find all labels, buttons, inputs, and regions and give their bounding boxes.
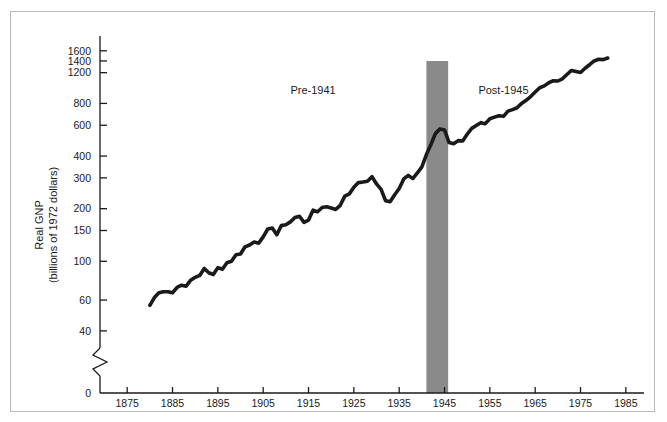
axes-layer bbox=[93, 36, 644, 393]
real-gnp-line bbox=[150, 58, 608, 305]
y-tick-label: 100 bbox=[73, 255, 91, 267]
data-series-layer bbox=[150, 58, 608, 305]
x-tick-label: 1935 bbox=[388, 397, 412, 409]
figure-container: 4060100150200300400600800120014001600018… bbox=[0, 0, 667, 422]
x-tick-label: 1975 bbox=[569, 397, 593, 409]
x-tick-label: 1875 bbox=[116, 397, 140, 409]
x-tick-label: 1925 bbox=[342, 397, 366, 409]
wwii-band bbox=[426, 61, 448, 393]
y-tick-label: 1600 bbox=[68, 45, 92, 57]
shaded-regions-layer bbox=[426, 61, 448, 393]
tick-labels-layer: 4060100150200300400600800120014001600018… bbox=[68, 45, 638, 409]
y-tick-label: 200 bbox=[73, 202, 91, 214]
y-tick-label: 300 bbox=[73, 172, 91, 184]
x-tick-label: 1965 bbox=[524, 397, 548, 409]
y-axis-title-line2: (billions of 1972 dollars) bbox=[47, 167, 59, 283]
x-tick-label: 1915 bbox=[297, 397, 321, 409]
x-tick-label: 1885 bbox=[161, 397, 185, 409]
y-tick-label: 1200 bbox=[68, 66, 92, 78]
x-tick-label: 1895 bbox=[206, 397, 230, 409]
annotation-post-1945: Post-1945 bbox=[478, 84, 528, 96]
y-tick-label: 600 bbox=[73, 119, 91, 131]
y-axis-break-zigzag bbox=[93, 348, 107, 376]
y-tick-label-zero: 0 bbox=[85, 387, 91, 399]
annotations-layer: Pre-1941Post-1945 bbox=[290, 84, 528, 96]
y-tick-label: 150 bbox=[73, 224, 91, 236]
x-tick-label: 1955 bbox=[478, 397, 502, 409]
y-axis-title-line1: Real GNP bbox=[33, 200, 45, 250]
annotation-pre-1941: Pre-1941 bbox=[290, 84, 335, 96]
y-tick-label: 40 bbox=[79, 325, 91, 337]
y-tick-label: 60 bbox=[79, 294, 91, 306]
y-tick-label: 400 bbox=[73, 150, 91, 162]
gnp-line-chart: 4060100150200300400600800120014001600018… bbox=[0, 0, 667, 422]
y-tick-label: 800 bbox=[73, 97, 91, 109]
x-tick-label: 1945 bbox=[433, 397, 457, 409]
x-tick-label: 1985 bbox=[614, 397, 638, 409]
x-tick-label: 1905 bbox=[252, 397, 276, 409]
